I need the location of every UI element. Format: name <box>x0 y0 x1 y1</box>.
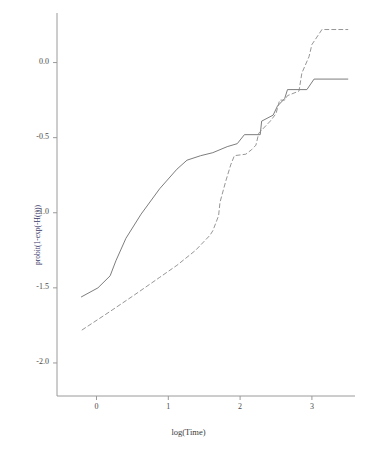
x-tick-label: 3 <box>292 403 332 411</box>
x-tick-label: 1 <box>148 403 188 411</box>
y-axis-title: probit(1-exp(-H(t))) <box>34 205 42 265</box>
probit-plot-figure: 0.0-0.5-1.0-1.5-2.0 0123 probit(1-exp(-H… <box>0 0 377 455</box>
x-tick-label: 2 <box>220 403 260 411</box>
series-line-group-2-dashed <box>82 30 348 330</box>
x-axis-ticks <box>96 396 311 400</box>
y-tick-label: -2.0 <box>0 358 49 366</box>
x-tick-label: 0 <box>76 403 116 411</box>
data-series-layer <box>81 30 347 330</box>
chart-canvas <box>0 0 377 455</box>
series-line-group-1-solid <box>81 79 347 297</box>
axis-lines <box>57 13 355 396</box>
y-tick-label: -0.5 <box>0 133 49 141</box>
x-axis-title: log(Time) <box>0 428 377 437</box>
y-tick-label: -1.5 <box>0 283 49 291</box>
y-tick-label: 0.0 <box>0 58 49 66</box>
y-axis-ticks <box>53 63 57 363</box>
